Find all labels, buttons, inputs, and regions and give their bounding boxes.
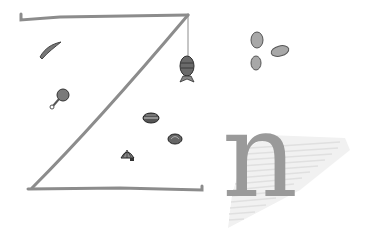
letter-z — [21, 14, 202, 190]
shell-icon — [168, 134, 182, 144]
shell-pile-icon — [143, 113, 159, 123]
illustration-canvas: n — [0, 0, 372, 244]
egg-icon-1 — [251, 32, 263, 48]
egg-icon-2 — [270, 44, 290, 58]
letter-n: n — [222, 96, 298, 214]
egg-icon-3 — [251, 56, 261, 70]
letter-z-drawing — [0, 0, 372, 244]
chili-pepper-icon — [40, 42, 61, 59]
fish-on-line-icon — [180, 56, 194, 82]
scallop-shell-icon — [121, 150, 134, 161]
drumstick-icon — [50, 89, 69, 109]
